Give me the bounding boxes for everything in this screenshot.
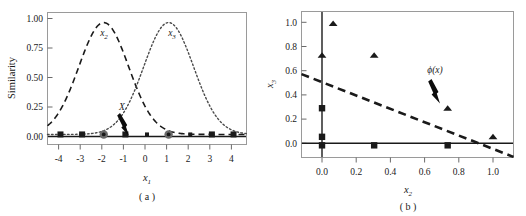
gaussian-curve-x3	[48, 23, 247, 135]
panel-b-x-ticks	[322, 158, 493, 163]
panel-a-ytick-label-2: 0.50	[26, 73, 43, 83]
data-marker-triangle	[329, 21, 338, 27]
svg-text:x2: x2	[99, 28, 108, 41]
data-marker-triangle	[443, 105, 452, 111]
panel-a-xtick-label-5: 1	[164, 154, 169, 164]
panel-b-ytick-label-2: 0.4	[285, 90, 297, 100]
data-marker-square	[145, 132, 149, 136]
panel-b-xtick-label-5: 1.0	[487, 167, 499, 177]
panel-a-yaxis-title: Similarity	[6, 56, 17, 99]
panel-a-xaxis-title: x1	[142, 172, 151, 186]
panel-b-ytick-label-4: 0.8	[285, 42, 297, 52]
data-marker-square	[79, 131, 85, 137]
svg-text:x2: x2	[403, 184, 413, 198]
panel-a-ytick-label-3: 0.75	[26, 43, 43, 53]
data-marker-triangle	[318, 52, 327, 58]
curve-label-x2-sub: 2	[104, 33, 108, 41]
panel-b-yaxis-title-sub: 3	[270, 79, 278, 84]
data-marker-square	[319, 142, 325, 148]
panel-a-xaxis-title-sub: 1	[148, 178, 152, 186]
panel-b-xaxis-title-sub: 2	[409, 190, 413, 198]
svg-text:x1: x1	[142, 172, 151, 186]
panel-b-xtick-label-0: 0.0	[316, 167, 328, 177]
data-marker-square	[209, 131, 215, 137]
decision-boundary-line	[302, 74, 514, 157]
panel-a-y-ticks	[48, 19, 53, 137]
panel-b-ytick-label-1: 0.2	[285, 114, 297, 124]
panel-a: 1.00 0.75 0.50 0.25 0.00 Similarity -4	[0, 0, 263, 216]
panel-b-xtick-label-1: 0.2	[350, 167, 362, 177]
panel-a-ytick-label-1: 0.25	[26, 102, 43, 112]
svg-text:x3: x3	[167, 28, 176, 41]
data-marker-core	[102, 133, 106, 137]
curve-label-x3: x3	[167, 28, 176, 41]
curve-label-x2: x2	[99, 28, 108, 41]
panel-b-xaxis-title: x2	[403, 184, 413, 198]
panel-a-caption: ( a )	[139, 191, 155, 203]
panel-a-xtick-label-4: 0	[143, 154, 148, 164]
panel-a-ytick-label-4: 1.00	[26, 14, 43, 24]
curve-label-x3-sub: 3	[171, 33, 176, 41]
data-marker-square	[231, 131, 237, 137]
annotation-phi-label: ϕ(x)	[427, 65, 442, 76]
panel-b-xtick-label-4: 0.8	[453, 167, 465, 177]
panel-a-plot-frame	[48, 13, 247, 145]
panel-b-yaxis-title: x3	[264, 79, 278, 89]
panel-b-ytick-label-0: 0.0	[285, 139, 297, 149]
panel-b-ytick-label-5: 1.0	[285, 18, 297, 28]
panel-a-xtick-label-7: 3	[207, 154, 212, 164]
arrow-down-icon	[428, 79, 440, 104]
svg-text:x3: x3	[264, 79, 278, 89]
panel-b-plot-frame	[302, 12, 514, 158]
data-marker-square	[188, 132, 192, 136]
panel-b-ytick-label-3: 0.6	[285, 66, 297, 76]
panel-a-xtick-label-0: -4	[55, 154, 63, 164]
panel-b-data-markers	[318, 21, 498, 149]
panel-b-xtick-label-3: 0.6	[419, 167, 431, 177]
data-marker-triangle	[489, 134, 498, 140]
data-marker-square	[319, 134, 325, 140]
panel-a-xtick-label-8: 4	[229, 154, 234, 164]
panel-a-xtick-label-3: -1	[119, 154, 127, 164]
panel-a-x-ticks	[59, 145, 232, 150]
panel-b-y-ticks	[302, 22, 307, 143]
data-marker-square	[371, 142, 377, 148]
panel-b-caption: ( b )	[400, 201, 417, 213]
figure-container: 1.00 0.75 0.50 0.25 0.00 Similarity -4	[0, 0, 526, 216]
data-marker-square	[57, 131, 63, 137]
panel-a-xtick-label-6: 2	[186, 154, 191, 164]
panel-a-data-markers	[57, 130, 236, 138]
panel-a-xtick-label-2: -2	[98, 154, 106, 164]
data-marker-square	[319, 105, 325, 111]
data-marker-core	[167, 133, 171, 137]
panel-b: 1.0 0.8 0.6 0.4 0.2 0.0 x3 0.0 0.2 0.4	[263, 0, 526, 216]
annotation-X-label: X	[118, 102, 126, 112]
panel-b-xtick-label-2: 0.4	[384, 167, 396, 177]
data-marker-triangle	[370, 52, 379, 58]
gaussian-curve-x2	[48, 23, 247, 135]
panel-a-ytick-label-0: 0.00	[26, 132, 43, 142]
data-marker-square	[444, 142, 450, 148]
panel-a-xtick-label-1: -3	[76, 154, 84, 164]
